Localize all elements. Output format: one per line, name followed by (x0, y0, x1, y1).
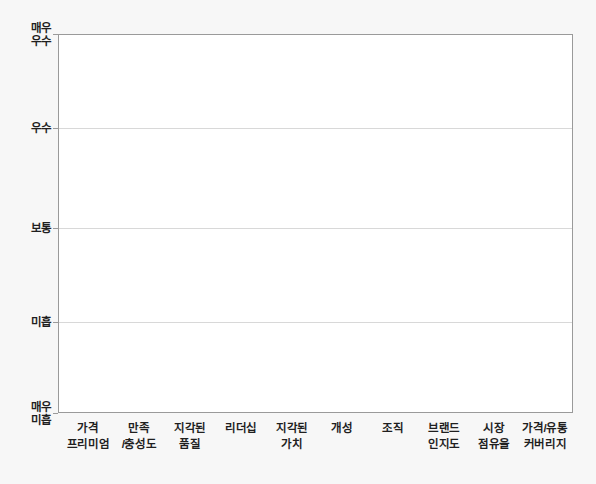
y-axis-labels: 매우 우수 우수 보통 미흡 매우 미흡 (0, 0, 52, 484)
x-axis-label-line: 지각된 (174, 420, 206, 436)
chart-container: 매우 우수 우수 보통 미흡 매우 미흡 가격 프리미엄 만족 /충성도 지각된 (0, 0, 596, 484)
y-axis-label-poor: 미흡 (0, 316, 52, 329)
y-axis-label-line: 보통 (0, 222, 52, 235)
x-axis-label-line: 지각된 (276, 420, 308, 436)
x-axis-label-line: 가격/유통 (522, 420, 567, 436)
x-axis-label-price-distribution-coverage: 가격/유통 커버리지 (522, 420, 567, 452)
y-tickmark-2 (53, 228, 58, 229)
x-axis-label-line: 커버리지 (522, 436, 567, 452)
x-axis-labels: 가격 프리미엄 만족 /충성도 지각된 품질 리더십 지각된 가치 개성 조직 … (0, 420, 596, 466)
x-axis-label-line: /충성도 (122, 436, 157, 452)
x-axis-label-brand-awareness: 브랜드 인지도 (428, 420, 460, 452)
x-axis-label-line: 품질 (174, 436, 206, 452)
x-axis-label-line: 시장 (478, 420, 510, 436)
x-axis-label-price-premium: 가격 프리미엄 (67, 420, 109, 452)
x-axis-label-perceived-quality: 지각된 품질 (174, 420, 206, 452)
y-tickmark-4 (53, 413, 58, 414)
x-axis-label-line: 브랜드 (428, 420, 460, 436)
y-tickmark-3 (53, 322, 58, 323)
x-axis-label-personality: 개성 (331, 420, 352, 436)
y-axis-label-average: 보통 (0, 222, 52, 235)
x-axis-label-leadership: 리더십 (225, 420, 257, 436)
x-axis-label-satisfaction-loyalty: 만족 /충성도 (122, 420, 157, 452)
x-axis-label-line: 만족 (122, 420, 157, 436)
x-axis-label-line: 프리미엄 (67, 436, 109, 452)
x-axis-label-line: 개성 (331, 420, 352, 436)
gridline-poor (59, 322, 572, 323)
gridline-average (59, 228, 572, 229)
y-axis-label-very-excellent: 매우 우수 (0, 22, 52, 48)
plot-area (58, 34, 573, 413)
x-axis-label-organization: 조직 (382, 420, 403, 436)
x-axis-label-line: 리더십 (225, 420, 257, 436)
y-axis-label-line: 우수 (0, 35, 52, 48)
gridline-excellent (59, 128, 572, 129)
y-axis-label-line: 매우 (0, 401, 52, 414)
x-axis-label-line: 가격 (67, 420, 109, 436)
x-axis-label-line: 인지도 (428, 436, 460, 452)
y-axis-label-line: 우수 (0, 122, 52, 135)
x-axis-label-line: 가치 (276, 436, 308, 452)
x-axis-label-line: 점유율 (478, 436, 510, 452)
y-axis-label-line: 미흡 (0, 316, 52, 329)
y-axis-label-excellent: 우수 (0, 122, 52, 135)
x-axis-label-market-share: 시장 점유율 (478, 420, 510, 452)
y-tickmark-0 (53, 34, 58, 35)
x-axis-label-perceived-value: 지각된 가치 (276, 420, 308, 452)
x-axis-label-line: 조직 (382, 420, 403, 436)
y-axis-label-line: 매우 (0, 22, 52, 35)
y-tickmark-1 (53, 128, 58, 129)
